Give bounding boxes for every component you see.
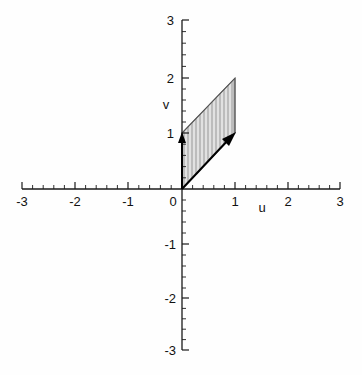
x-tick-label-2: 2 xyxy=(284,194,291,209)
origin-label: 0 xyxy=(169,194,176,209)
y-tick-label--2: -2 xyxy=(164,291,176,306)
x-tick-label--3: -3 xyxy=(16,194,28,209)
y-tick-label-1: 1 xyxy=(167,126,174,141)
y-tick-label-2: 2 xyxy=(167,71,174,86)
coordinate-plot: -3 -2 -1 0 1 2 3 3 2 1 -1 -2 -3 u v xyxy=(0,0,362,375)
y-tick-label--1: -1 xyxy=(164,237,176,252)
x-tick-label-3: 3 xyxy=(336,194,343,209)
y-axis-label: v xyxy=(163,97,170,112)
x-tick-label--1: -1 xyxy=(122,194,134,209)
y-tick-label-3: 3 xyxy=(167,13,174,28)
x-axis-label: u xyxy=(258,200,265,215)
plot-canvas: -3 -2 -1 0 1 2 3 3 2 1 -1 -2 -3 u v xyxy=(0,0,362,375)
x-tick-label--2: -2 xyxy=(69,194,81,209)
x-tick-label-1: 1 xyxy=(231,194,238,209)
shaded-parallelogram-region xyxy=(182,70,235,195)
y-tick-label--3: -3 xyxy=(164,343,176,358)
